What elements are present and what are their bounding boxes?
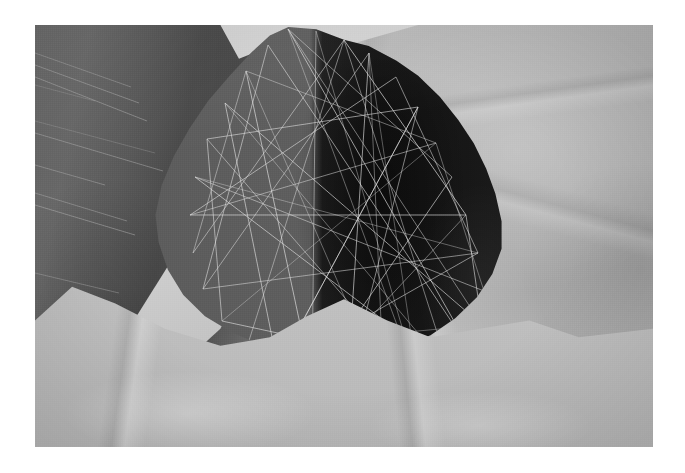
photograph-plate: [35, 25, 653, 447]
screenshot-canvas: Torn aperture in crumpled sheeting Grays…: [0, 0, 685, 473]
vignette-overlay: [35, 25, 653, 447]
